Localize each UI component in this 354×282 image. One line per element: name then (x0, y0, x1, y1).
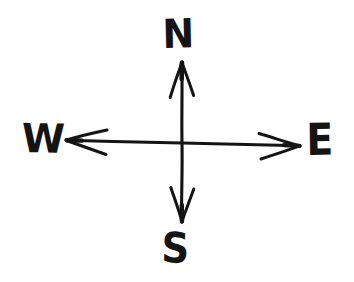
direction-label-north: N (162, 13, 195, 54)
compass-diagram-canvas: N W E S (0, 0, 354, 282)
direction-label-west: W (21, 118, 65, 159)
direction-label-south: S (161, 227, 190, 270)
direction-label-east: E (306, 117, 334, 162)
